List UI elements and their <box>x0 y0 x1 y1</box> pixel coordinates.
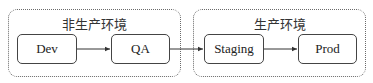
node-qa: QA <box>111 34 170 64</box>
node-prod: Prod <box>298 34 357 64</box>
node-dev: Dev <box>17 34 77 64</box>
node-staging: Staging <box>204 34 264 64</box>
